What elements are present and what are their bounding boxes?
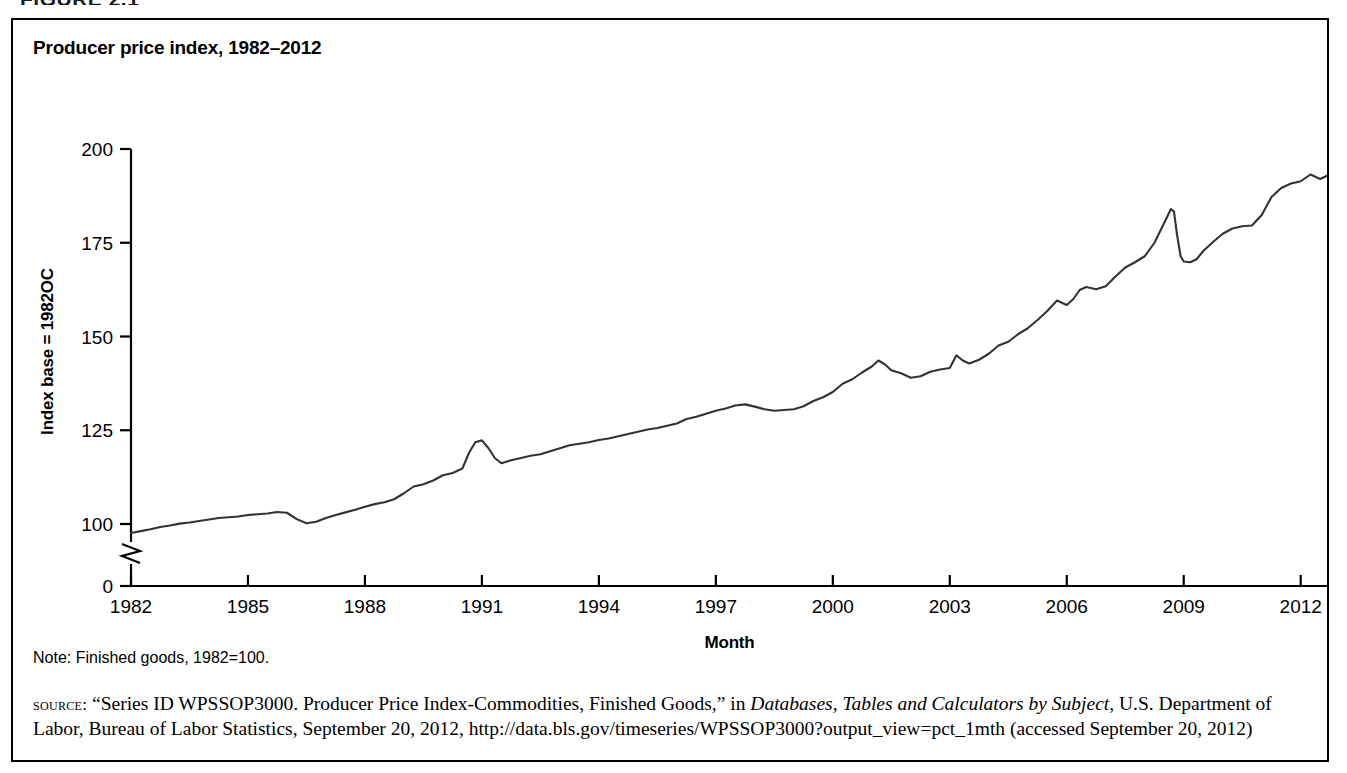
svg-text:1997: 1997 [695, 596, 737, 617]
svg-text:1985: 1985 [227, 596, 269, 617]
svg-text:2012: 2012 [1280, 596, 1322, 617]
chart-title: Producer price index, 1982–2012 [33, 37, 321, 59]
svg-text:0: 0 [102, 576, 113, 597]
svg-text:175: 175 [81, 233, 113, 254]
source-label: source: [33, 695, 87, 714]
svg-text:100: 100 [81, 514, 113, 535]
svg-text:Month: Month [705, 633, 755, 652]
source-text-before: “Series ID WPSSOP3000. Producer Price In… [87, 693, 750, 714]
line-chart: 0100125150175200198219851988199119941997… [13, 98, 1327, 658]
svg-text:2003: 2003 [929, 596, 971, 617]
svg-text:2000: 2000 [812, 596, 854, 617]
svg-text:1994: 1994 [578, 596, 621, 617]
chart-note: Note: Finished goods, 1982=100. [33, 649, 269, 667]
svg-text:Index base = 1982OC: Index base = 1982OC [38, 268, 57, 435]
figure-heading: FIGURE 2.1 [20, 0, 139, 5]
figure-box: Producer price index, 1982–2012 01001251… [11, 18, 1329, 762]
svg-text:150: 150 [81, 327, 113, 348]
svg-text:200: 200 [81, 139, 113, 160]
svg-text:2009: 2009 [1163, 596, 1205, 617]
chart-plot-area: 0100125150175200198219851988199119941997… [13, 98, 1327, 658]
svg-text:1982: 1982 [110, 596, 152, 617]
chart-source: source: “Series ID WPSSOP3000. Producer … [33, 692, 1318, 740]
svg-text:2006: 2006 [1046, 596, 1088, 617]
source-publication-title: Databases, Tables and Calculators by Sub… [750, 693, 1109, 714]
svg-text:1988: 1988 [344, 596, 386, 617]
svg-text:125: 125 [81, 420, 113, 441]
svg-text:1991: 1991 [461, 596, 503, 617]
